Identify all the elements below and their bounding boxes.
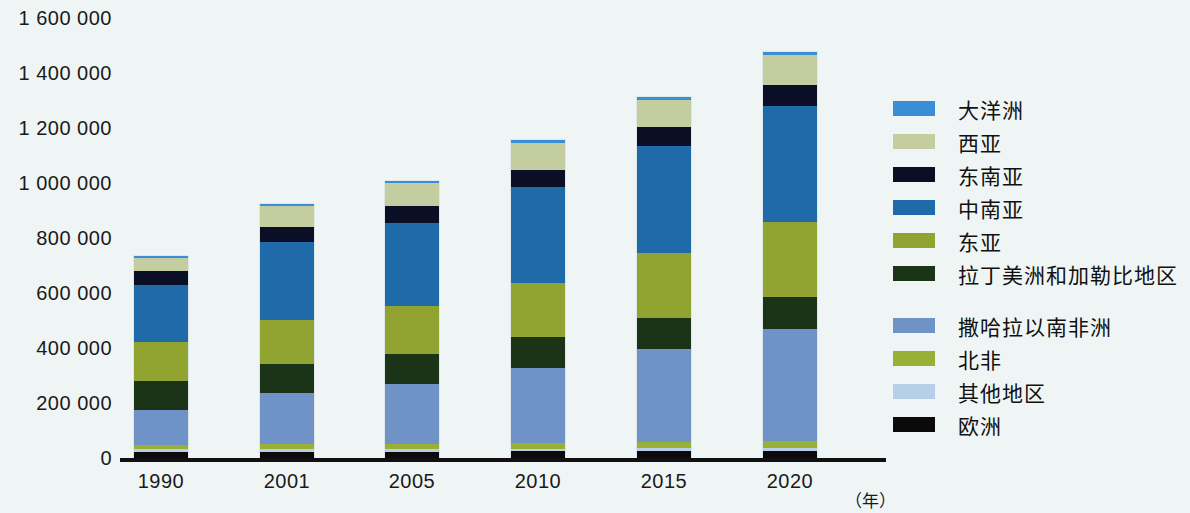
y-tick-label: 1 000 000 xyxy=(19,172,112,195)
bar-2010[interactable] xyxy=(511,140,565,458)
legend-swatch xyxy=(893,318,935,333)
bar-segment xyxy=(763,106,817,222)
bar-segment xyxy=(260,206,314,226)
legend-label: 大洋洲 xyxy=(958,94,1024,124)
bar-segment xyxy=(637,318,691,349)
legend-swatch xyxy=(893,384,935,399)
bar-segment xyxy=(763,222,817,298)
legend-swatch xyxy=(893,200,935,215)
bar-segment xyxy=(134,285,188,342)
x-tick-label: 2001 xyxy=(227,470,347,493)
bar-segment xyxy=(385,384,439,444)
bar-segment xyxy=(385,223,439,306)
bar-1990[interactable] xyxy=(134,256,188,458)
legend-item[interactable]: 拉丁美洲和加勒比地区 xyxy=(893,257,1183,290)
bar-segment xyxy=(260,227,314,242)
bar-segment xyxy=(763,329,817,441)
bar-segment xyxy=(637,146,691,254)
legend-label: 拉丁美洲和加勒比地区 xyxy=(958,259,1178,289)
bar-segment xyxy=(637,253,691,317)
bar-segment xyxy=(260,364,314,394)
legend-item[interactable]: 撒哈拉以南非洲 xyxy=(893,309,1183,342)
bar-2015[interactable] xyxy=(637,97,691,458)
bar-segment xyxy=(511,283,565,337)
y-axis: 1 600 0001 400 0001 200 0001 000 000800 … xyxy=(0,0,112,513)
y-tick-label: 1 600 000 xyxy=(19,7,112,30)
bar-segment xyxy=(511,187,565,283)
legend-item[interactable]: 东亚 xyxy=(893,224,1183,257)
bar-segment xyxy=(511,368,565,443)
bar-segment xyxy=(260,393,314,444)
chart-canvas: 1 600 0001 400 0001 200 0001 000 000800 … xyxy=(0,0,1190,513)
legend-item[interactable]: 东南亚 xyxy=(893,158,1183,191)
legend-label: 中南亚 xyxy=(958,193,1024,223)
bar-segment xyxy=(385,354,439,384)
chart-legend: 大洋洲西亚东南亚中南亚东亚拉丁美洲和加勒比地区撒哈拉以南非洲北非其他地区欧洲 xyxy=(893,92,1183,441)
legend-swatch xyxy=(893,351,935,366)
bar-2001[interactable] xyxy=(260,204,314,458)
y-tick-label: 200 000 xyxy=(36,392,112,415)
legend-swatch xyxy=(893,233,935,248)
bar-segment xyxy=(763,441,817,448)
bar-segment xyxy=(385,183,439,206)
legend-label: 欧洲 xyxy=(958,410,1002,440)
bar-segment xyxy=(763,85,817,106)
bar-segment xyxy=(260,242,314,321)
bar-segment xyxy=(260,320,314,363)
bar-segment xyxy=(763,297,817,329)
bar-segment xyxy=(134,410,188,445)
legend-label: 东南亚 xyxy=(958,160,1024,190)
bar-segment xyxy=(637,100,691,127)
legend-swatch xyxy=(893,167,935,182)
x-axis-unit-label: （年） xyxy=(845,487,896,512)
bar-segment xyxy=(511,451,565,458)
legend-label: 西亚 xyxy=(958,127,1002,157)
bar-segment xyxy=(511,337,565,368)
legend-label: 东亚 xyxy=(958,226,1002,256)
legend-swatch xyxy=(893,101,935,116)
bar-segment xyxy=(637,451,691,458)
bar-segment xyxy=(134,258,188,271)
legend-item[interactable]: 其他地区 xyxy=(893,375,1183,408)
legend-swatch xyxy=(893,134,935,149)
legend-group-divider xyxy=(893,290,1183,309)
bar-2005[interactable] xyxy=(385,181,439,458)
legend-item[interactable]: 大洋洲 xyxy=(893,92,1183,125)
plot-area xyxy=(122,8,882,458)
legend-label: 撒哈拉以南非洲 xyxy=(958,311,1112,341)
bar-segment xyxy=(511,170,565,188)
bar-2020[interactable] xyxy=(763,52,817,458)
bar-segment xyxy=(763,451,817,458)
legend-swatch xyxy=(893,266,935,281)
y-tick-label: 800 000 xyxy=(36,227,112,250)
y-tick-label: 400 000 xyxy=(36,337,112,360)
bar-segment xyxy=(134,271,188,285)
x-tick-label: 2020 xyxy=(730,470,850,493)
x-axis-line xyxy=(120,458,886,462)
y-tick-label: 1 200 000 xyxy=(19,117,112,140)
legend-label: 北非 xyxy=(958,344,1002,374)
bar-segment xyxy=(385,206,439,223)
y-tick-label: 1 400 000 xyxy=(19,62,112,85)
legend-item[interactable]: 欧洲 xyxy=(893,408,1183,441)
legend-item[interactable]: 西亚 xyxy=(893,125,1183,158)
x-tick-label: 2015 xyxy=(604,470,724,493)
bar-segment xyxy=(134,381,188,410)
y-tick-label: 600 000 xyxy=(36,282,112,305)
legend-item[interactable]: 中南亚 xyxy=(893,191,1183,224)
legend-item[interactable]: 北非 xyxy=(893,342,1183,375)
bar-segment xyxy=(637,349,691,442)
bar-segment xyxy=(385,306,439,354)
bar-segment xyxy=(763,55,817,85)
y-tick-label: 0 xyxy=(100,447,112,470)
legend-label: 其他地区 xyxy=(958,377,1046,407)
bar-segment xyxy=(637,127,691,146)
x-tick-label: 2005 xyxy=(352,470,472,493)
x-tick-label: 1990 xyxy=(101,470,221,493)
bar-segment xyxy=(134,342,188,381)
bar-segment xyxy=(511,143,565,170)
legend-swatch xyxy=(893,417,935,432)
x-tick-label: 2010 xyxy=(478,470,598,493)
